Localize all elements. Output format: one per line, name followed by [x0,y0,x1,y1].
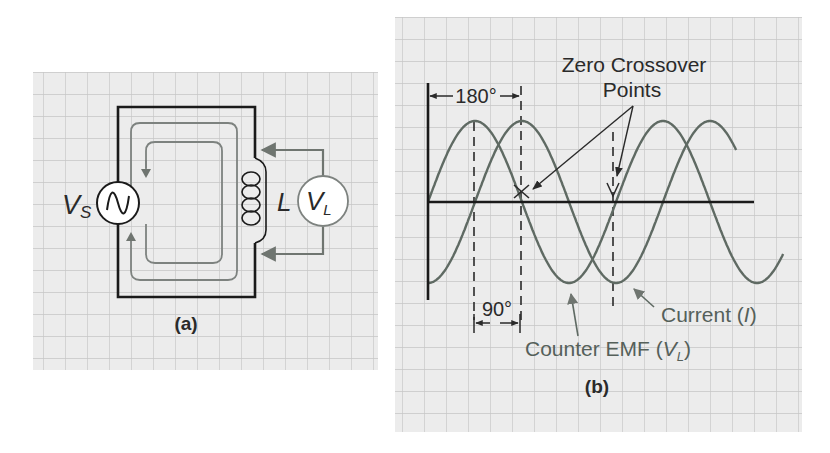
angle-90-label: 90° [482,298,512,320]
angle-180-label: 180° [455,85,496,107]
zero-crossover-label-line2: Points [603,78,661,101]
ac-voltage-source-icon [97,182,139,224]
grid-lines-b [395,17,802,432]
caption-a: (a) [174,313,197,334]
panel-a-circuit: VS L VL (a) [33,72,378,370]
figure-canvas: VS L VL (a) 180° [0,0,830,453]
zero-crossover-label-line1: Zero Crossover [562,53,707,76]
current-label: Current (I) [661,303,757,326]
caption-b: (b) [585,376,609,397]
inductor-label: L [277,187,291,217]
panel-b-waveforms: 180° 90° Zero Crossover Points Current (… [395,17,802,432]
counter-emf-label: Counter EMF (VL) [525,337,691,364]
